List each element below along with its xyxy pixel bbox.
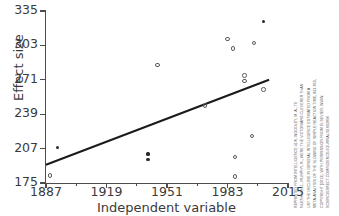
trend-line [0, 0, 296, 216]
credit-text-block: REPRINTED FROM INTELLIGENCE 41/6, WOODLE… [296, 0, 339, 216]
x-axis-title: Independent variable [45, 200, 288, 215]
data-point [48, 173, 52, 177]
credit-line: COPYRIGHT (2013), WITH PERMISSION FROM E… [320, 95, 324, 208]
credit-line: REPRINTED FROM INTELLIGENCE 41/6, WOODLE… [294, 101, 298, 208]
chart-root: 175207239271303335 18871919195119832015 … [0, 0, 339, 216]
credit-line: US? THE DECLINE IN GENERAL INTELLIGENCE … [307, 88, 311, 208]
data-point [146, 158, 149, 161]
data-point [203, 103, 207, 107]
data-point [261, 87, 265, 91]
credit-line: SCIENCEDIRECT.COM/SCIENCE/JOURNAL/016028… [326, 116, 330, 208]
data-point [242, 73, 246, 77]
data-point [225, 37, 229, 41]
credit-line: META-ANALYSIS OF THE SLOWING OF SIMPLE R… [313, 79, 317, 208]
credit-line: NIJENHUIS, J., MURPHY, R., WERE THE VICT… [300, 84, 304, 208]
data-point [146, 152, 149, 155]
y-axis-title: Effect size [11, 18, 26, 118]
scatter-plot-area: 175207239271303335 18871919195119832015 … [0, 0, 296, 216]
data-point [56, 146, 59, 149]
data-point [155, 63, 159, 67]
data-point [233, 174, 237, 178]
data-point [242, 79, 246, 83]
